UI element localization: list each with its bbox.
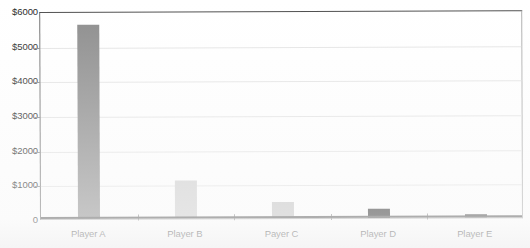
y-axis-tick-label: $3000 [0,111,38,121]
x-axis-category-label: Player A [71,228,106,240]
bar-player-a [78,25,101,219]
y-axis-tick-label: $1000 [0,180,38,190]
bar-player-b [175,180,197,218]
y-axis-tick [35,152,41,153]
gridline [40,80,521,83]
bar-chart: $6000 $5000 $4000 $3000 $2000 $1000 0 [0,0,530,248]
x-axis-category-label: Player E [457,228,492,240]
x-axis-category-label: Player B [167,228,202,240]
y-axis-tick [35,186,41,187]
y-axis-tick-label: $6000 [0,7,38,17]
y-axis-tick [34,82,40,83]
gridline [41,184,522,187]
x-axis-category-label: Payer C [265,228,299,240]
y-axis-labels: $6000 $5000 $4000 $3000 $2000 $1000 0 [0,0,38,248]
y-axis-tick-label: 0 [0,215,38,225]
x-axis-labels: Player A Player B Payer C Player D Playe… [40,228,523,244]
y-axis-tick [34,48,40,49]
gridline [40,46,521,49]
gridline [41,150,522,153]
y-axis-tick-label: $5000 [0,42,38,52]
plot-area [39,10,523,220]
x-axis-category-label: Player D [360,228,396,240]
y-axis-tick-label: $2000 [0,146,38,156]
x-axis-line [41,216,522,219]
y-axis-tick-label: $4000 [0,76,38,86]
gridline [41,115,522,118]
y-axis-tick [35,117,41,118]
